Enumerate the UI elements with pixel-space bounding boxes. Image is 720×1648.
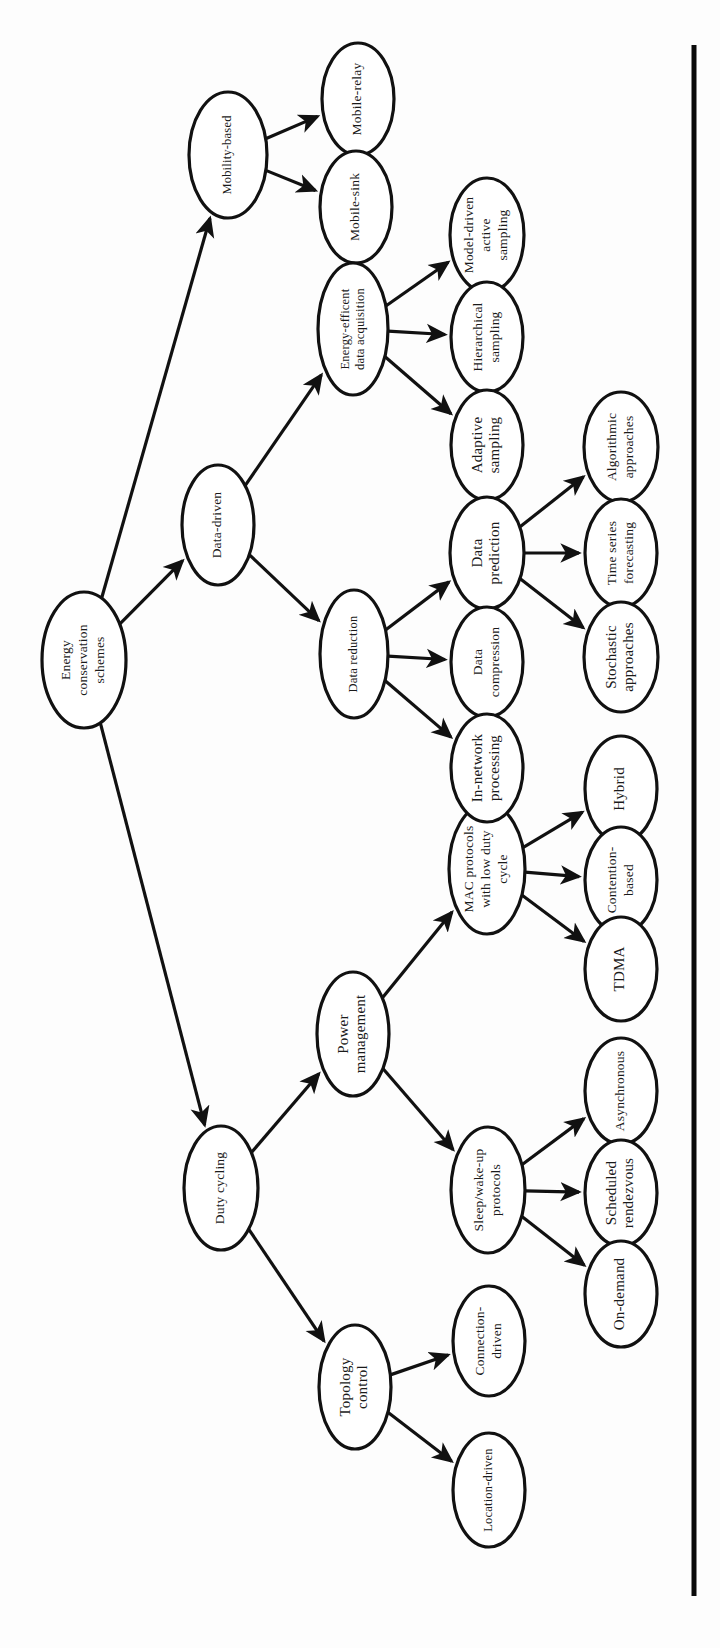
node-label-line: Power [335, 1014, 351, 1053]
edge-eeda-to-mdas [386, 262, 448, 306]
node-conn[interactable]: Connection-driven [453, 1286, 525, 1396]
node-label-line: MAC protocols [461, 826, 476, 913]
node-msink[interactable]: Mobile-sink [320, 151, 392, 263]
node-label-line: sampling [495, 209, 510, 260]
node-dred[interactable]: Data reduction [320, 590, 388, 718]
edge-topo-to-conn [390, 1355, 448, 1375]
node-label-line: rendezvous [620, 1158, 636, 1228]
node-label-line: Algorithmic [604, 413, 619, 481]
node-label-line: Energy [58, 640, 73, 680]
node-tdma[interactable]: TDMA [585, 917, 657, 1021]
node-async[interactable]: Asynchronous [585, 1038, 657, 1144]
node-label-line: with low duty [478, 830, 493, 908]
node-label-line: prediction [486, 521, 502, 584]
node-label-line: Data reduction [346, 615, 360, 692]
node-duty[interactable]: Duty cycling [184, 1126, 258, 1250]
node-label-line: data acquisition [352, 287, 366, 370]
node-label: Mobile-relay [349, 63, 364, 136]
node-label-line: sampling [487, 311, 502, 362]
node-hier[interactable]: Hierarchicalsampling [451, 282, 523, 392]
node-label: Mobility-based [220, 115, 234, 195]
node-mdas[interactable]: Model-drivenactivesampling [450, 178, 524, 292]
node-mrelay[interactable]: Mobile-relay [322, 43, 394, 155]
node-label-line: cycle [495, 854, 510, 883]
figure-canvas: EnergyconservationschemesMobility-basedD… [0, 0, 720, 1648]
edge-topo-to-loc [388, 1412, 452, 1461]
node-label-line: TDMA [611, 947, 627, 992]
node-label: Asynchronous [612, 1051, 627, 1131]
node-label-line: schemes [92, 636, 107, 683]
node-topo[interactable]: Topologycontrol [319, 1325, 391, 1449]
node-label-line: Hierarchical [470, 302, 485, 371]
edge-mac-to-hybrid [523, 812, 582, 848]
taxonomy-tree-diagram: EnergyconservationschemesMobility-basedD… [0, 0, 720, 1648]
node-sched[interactable]: Scheduledrendezvous [585, 1140, 657, 1246]
edge-datadriven-to-dred [249, 555, 319, 621]
node-bpred1[interactable]: Algorithmicapproaches [584, 392, 658, 502]
node-label-line: Mobility-based [220, 115, 234, 195]
node-label-line: Energy-efficent [337, 288, 351, 369]
node-dcomp[interactable]: Datacompression [451, 607, 523, 717]
node-root[interactable]: Energyconservationschemes [42, 592, 126, 728]
node-label-line: Hybrid [611, 767, 627, 811]
node-label-line: management [352, 994, 368, 1073]
edge-eeda-to-hier [388, 331, 445, 334]
edge-dred-to-dcomp [388, 656, 445, 659]
node-loc[interactable]: Location-driven [453, 1433, 525, 1547]
node-label-line: Time series [604, 521, 619, 585]
edge-sleep-to-sched [525, 1191, 579, 1192]
node-bpred2[interactable]: Time seriesforecasting [585, 499, 657, 607]
edge-mac-to-tdma [522, 895, 584, 941]
node-label: Location-driven [481, 1448, 495, 1532]
node-label-line: Scheduled [603, 1161, 619, 1226]
node-label-line: forecasting [621, 522, 636, 584]
node-label-line: Connection- [472, 1306, 487, 1375]
node-mobility[interactable]: Mobility-based [189, 92, 267, 218]
node-label-line: based [621, 864, 636, 896]
node-eeda[interactable]: Energy-efficentdata acquisition [318, 263, 388, 395]
node-label: Energy-efficentdata acquisition [337, 287, 366, 370]
node-label-line: Adaptive [469, 417, 485, 474]
node-label: Topologycontrol [337, 1357, 370, 1416]
node-label-line: approaches [620, 622, 636, 691]
node-bpred3[interactable]: Stochasticapproaches [584, 602, 658, 712]
node-label-line: In-network [469, 733, 485, 802]
node-sleep[interactable]: Sleep/wake-upprotocols [451, 1127, 525, 1253]
node-label: On-demand [611, 1257, 627, 1330]
node-label: Data-driven [209, 492, 224, 559]
node-ondem[interactable]: On-demand [585, 1241, 657, 1347]
node-label-line: Asynchronous [612, 1051, 627, 1131]
node-label-line: Mobile-sink [347, 173, 362, 241]
node-label-line: protocols [488, 1164, 503, 1216]
node-label-line: driven [489, 1323, 504, 1359]
node-label-line: sampling [486, 416, 502, 473]
node-label-line: Data-driven [209, 492, 224, 559]
node-adapt[interactable]: Adaptivesampling [451, 390, 523, 500]
node-power[interactable]: Powermanagement [317, 972, 389, 1096]
node-label-line: Location-driven [481, 1448, 495, 1532]
node-label: Mobile-sink [347, 173, 362, 241]
edge-datadriven-to-eeda [245, 375, 321, 486]
node-innet[interactable]: In-networkprocessing [451, 714, 523, 822]
edge-root-to-datadriven [120, 561, 183, 624]
node-label: Hybrid [611, 767, 627, 811]
node-label-line: approaches [621, 416, 636, 479]
node-label-line: conservation [75, 624, 90, 695]
node-label: Scheduledrendezvous [603, 1158, 636, 1228]
node-label: Duty cycling [212, 1152, 227, 1225]
node-label-line: Stochastic [603, 625, 619, 689]
edge-dpred-to-bpred1 [520, 477, 584, 527]
edge-power-to-sleep [383, 1069, 453, 1150]
node-label-line: Contention- [604, 846, 619, 913]
edge-duty-to-power [251, 1074, 319, 1153]
edge-mobility-to-mrelay [266, 116, 318, 138]
node-datadriven[interactable]: Data-driven [182, 465, 254, 585]
node-label: Adaptivesampling [469, 416, 502, 473]
node-dpred[interactable]: Dataprediction [450, 497, 524, 609]
edge-sleep-to-async [522, 1119, 584, 1165]
node-label-line: Data [469, 538, 485, 567]
edge-duty-to-topo [249, 1229, 324, 1341]
edge-power-to-mac [382, 912, 452, 998]
edge-mobility-to-msink [266, 170, 316, 190]
node-label-line: compression [487, 627, 502, 697]
